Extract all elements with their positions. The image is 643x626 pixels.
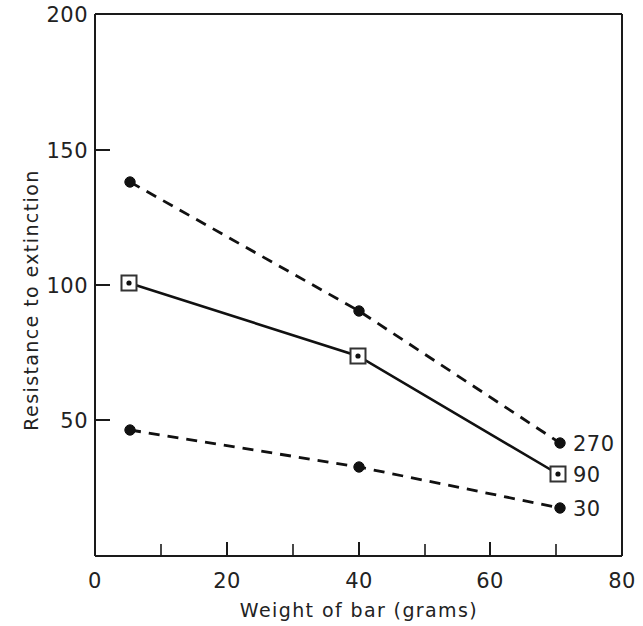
y-axis-title: Resistance to extinction [20, 169, 42, 430]
y-tick-labels: 200 150 100 50 [46, 3, 88, 433]
y-axis-ticks [95, 150, 110, 420]
chart-figure: 200 150 100 50 0 20 40 60 80 270 90 30 W… [0, 0, 643, 626]
series-30-point-0 [125, 425, 135, 435]
series-270-line [130, 182, 560, 443]
series-30-point-1 [354, 462, 364, 472]
series-label-90: 90 [573, 463, 601, 487]
series-90-point-2-center [555, 471, 560, 476]
series-270-point-2 [555, 438, 565, 448]
y-tick-label-200: 200 [46, 3, 88, 27]
series-labels: 270 90 30 [573, 432, 615, 521]
y-tick-label-150: 150 [46, 139, 88, 163]
series-270-point-0 [125, 177, 135, 187]
series-90-point-0-center [126, 280, 131, 285]
x-tick-label-60: 60 [476, 569, 504, 593]
series-label-30: 30 [573, 497, 601, 521]
series-270-point-1 [354, 306, 364, 316]
x-tick-label-20: 20 [213, 569, 241, 593]
series-30-line [130, 430, 560, 508]
series-90-point-1-center [355, 353, 360, 358]
x-axis-ticks [161, 542, 556, 556]
x-tick-label-0: 0 [88, 569, 102, 593]
x-tick-label-40: 40 [345, 569, 373, 593]
plot-frame [95, 14, 622, 556]
y-tick-label-100: 100 [46, 274, 88, 298]
x-tick-labels: 0 20 40 60 80 [88, 569, 636, 593]
x-tick-label-80: 80 [608, 569, 636, 593]
x-axis-title: Weight of bar (grams) [240, 599, 478, 621]
line-chart: 200 150 100 50 0 20 40 60 80 270 90 30 W… [0, 0, 643, 626]
series-30-point-2 [555, 503, 565, 513]
series-label-270: 270 [573, 432, 615, 456]
series-270 [125, 177, 565, 448]
y-tick-label-50: 50 [60, 409, 88, 433]
series-90-line [129, 283, 558, 474]
series-90 [122, 276, 566, 482]
